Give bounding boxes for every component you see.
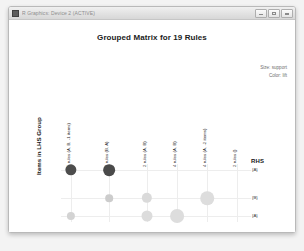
bubble-grid: 5 rules (A, B, -1 items)2 rules (B, A)2 …: [9, 20, 295, 232]
bubble-point[interactable]: [170, 209, 184, 223]
column-label: 2 rules (A, B): [143, 111, 151, 167]
column-label: 4 rules (A, -2 items): [203, 111, 211, 167]
grid-line-vertical: [237, 164, 238, 222]
window-titlebar[interactable]: R Graphics: Device 2 (ACTIVE): [9, 7, 295, 20]
rhs-row-label: {B}: [252, 195, 258, 200]
r-graphics-icon: [12, 10, 19, 17]
rhs-header: RHS: [251, 158, 264, 164]
column-label: 2 rules (B, A): [105, 111, 113, 167]
column-label-text: 2 rules (A, B): [142, 141, 147, 167]
grid-line-horizontal: [61, 198, 251, 199]
bubble-point[interactable]: [142, 193, 152, 203]
column-label: 2 rules (): [233, 111, 241, 167]
plot-canvas: Grouped Matrix for 19 Rules Size: suppor…: [9, 20, 295, 232]
column-label: 4 rules (A, B): [173, 111, 181, 167]
column-label-text: 4 rules (A, B): [172, 141, 177, 167]
column-label: 5 rules (A, B, -1 items): [67, 111, 75, 167]
grid-line-horizontal: [61, 170, 251, 171]
bubble-point[interactable]: [103, 164, 115, 176]
close-button[interactable]: [281, 9, 293, 18]
window-title: R Graphics: Device 2 (ACTIVE): [22, 10, 254, 16]
column-label-text: 5 rules (A, B, -1 items): [66, 123, 71, 167]
maximize-button[interactable]: [268, 9, 280, 18]
r-graphics-window: R Graphics: Device 2 (ACTIVE) Grouped Ma…: [8, 6, 296, 233]
column-label-text: 2 rules (): [232, 150, 237, 167]
rhs-row-label: {A}: [252, 167, 258, 172]
bubble-point[interactable]: [142, 211, 153, 222]
bubble-point[interactable]: [105, 194, 113, 202]
minimize-button[interactable]: [255, 9, 267, 18]
rhs-row-label: {A}: [252, 213, 258, 218]
bubble-point[interactable]: [67, 212, 75, 220]
grid-line-horizontal: [61, 216, 251, 217]
column-label-text: 4 rules (A, -2 items): [202, 128, 207, 167]
bubble-point[interactable]: [65, 164, 76, 175]
bubble-point[interactable]: [200, 191, 214, 205]
column-label-text: 2 rules (B, A): [104, 141, 109, 167]
